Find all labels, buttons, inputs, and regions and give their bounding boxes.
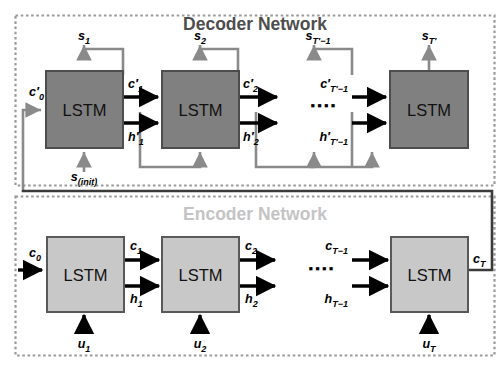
decoder-lstm-label-3: LSTM: [407, 101, 451, 119]
encoder-lstm-label-2: LSTM: [178, 266, 222, 284]
decoder-ellipsis: ▪▪▪▪: [310, 98, 337, 113]
architecture-diagram: Decoder Network LSTM LSTM: [0, 0, 503, 367]
decoder-lstm-label-1: LSTM: [62, 101, 106, 119]
decoder-lstm-label-2: LSTM: [178, 101, 222, 119]
encoder-ellipsis: ▪▪▪▪: [308, 261, 335, 276]
encoder-title: Encoder Network: [183, 204, 327, 224]
encoder-lstm-label-3: LSTM: [407, 266, 451, 284]
encoder-lstm-label-1: LSTM: [63, 266, 107, 284]
figure-canvas: Decoder Network LSTM LSTM: [0, 0, 503, 367]
